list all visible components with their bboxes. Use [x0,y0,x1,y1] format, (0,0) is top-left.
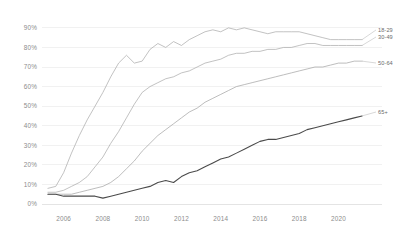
chart-canvas: 0%10%20%30%40%50%60%70%80%90% 2006200820… [0,0,406,237]
gridlines-group [42,28,382,204]
series-lines-group [48,28,362,198]
series-label-18-29: 18-29 [378,27,393,33]
line-chart: 0%10%20%30%40%50%60%70%80%90% 2006200820… [0,0,406,237]
y-tick-label: 50% [24,102,37,109]
x-tick-label: 2010 [135,215,150,222]
series-leader-line [362,61,376,63]
y-tick-label: 70% [24,63,37,70]
series-label-30-49: 30-49 [378,34,393,40]
y-axis-ticks: 0%10%20%30%40%50%60%70%80%90% [24,24,37,207]
series-line-65plus [48,116,362,198]
series-line-18-29 [48,28,362,188]
x-tick-label: 2020 [331,215,346,222]
x-tick-label: 2016 [253,215,268,222]
series-labels-group: 18-2930-4950-6465+ [378,27,393,115]
x-tick-label: 2014 [213,215,228,222]
y-tick-label: 10% [24,181,37,188]
y-tick-label: 20% [24,161,37,168]
series-leader-line [362,112,376,116]
x-tick-label: 2018 [292,215,307,222]
x-axis-ticks: 20062008201020122014201620182020 [56,215,346,222]
y-tick-label: 30% [24,142,37,149]
x-tick-label: 2012 [174,215,189,222]
y-tick-label: 60% [24,83,37,90]
y-tick-label: 40% [24,122,37,129]
series-label-65plus: 65+ [378,109,388,115]
series-label-50-64: 50-64 [378,60,393,66]
x-tick-label: 2006 [56,215,71,222]
series-line-30-49 [48,44,362,193]
y-tick-label: 0% [27,200,37,207]
y-tick-label: 80% [24,44,37,51]
series-leader-lines [362,30,376,116]
x-tick-label: 2008 [95,215,110,222]
y-tick-label: 90% [24,24,37,31]
